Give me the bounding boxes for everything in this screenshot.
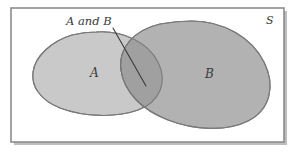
set-a-label: A: [89, 66, 99, 80]
venn-diagram-figure: A and B A B S: [0, 0, 297, 152]
set-b-label: B: [204, 67, 214, 81]
venn-diagram-canvas: A and B A B S: [0, 0, 297, 152]
universe-label: S: [266, 14, 274, 27]
intersection-label: A and B: [65, 14, 112, 28]
